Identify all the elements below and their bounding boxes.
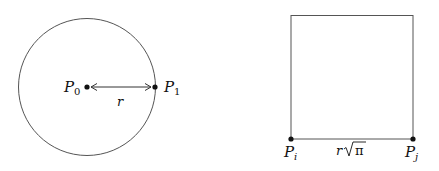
circle-figure: P0 P1 r — [19, 19, 181, 156]
point-pi — [288, 136, 293, 141]
label-p0: P0 — [63, 78, 80, 97]
svg-text:π: π — [355, 143, 364, 158]
label-side-length: r π — [336, 142, 366, 158]
point-p1 — [152, 84, 157, 89]
label-pj: Pj — [404, 143, 418, 162]
label-pi: Pi — [283, 143, 297, 162]
label-radius: r — [117, 94, 124, 109]
point-pj — [410, 136, 415, 141]
label-p1: P1 — [163, 78, 180, 97]
diagram-canvas: P0 P1 r Pi Pj r π — [0, 0, 439, 171]
svg-text:r: r — [336, 143, 343, 158]
point-p0 — [84, 84, 89, 89]
square — [291, 16, 413, 140]
square-figure: Pi Pj r π — [283, 16, 418, 163]
